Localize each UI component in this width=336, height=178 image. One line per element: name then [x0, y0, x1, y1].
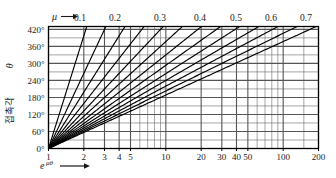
x-tick-label: 20	[197, 152, 207, 162]
y-tick-label: 240°	[27, 76, 45, 86]
y-tick-label: 420°	[27, 25, 45, 35]
x-tick-label: 100	[276, 152, 290, 162]
mu-value-label: 0.6	[265, 13, 277, 23]
x-tick-label: 50	[243, 152, 253, 162]
mu-value-label: 0.2	[109, 13, 121, 23]
y-axis-label-korean: 접촉각	[4, 97, 15, 124]
x-tick-label: 30	[217, 152, 227, 162]
mu-axis-symbol: μ	[51, 11, 57, 22]
x-tick-label: 200	[312, 152, 326, 162]
y-tick-label: 60°	[32, 127, 45, 137]
y-tick-label: 0°	[36, 144, 45, 154]
x-tick-label: 5	[128, 152, 133, 162]
y-tick-label: 300°	[27, 59, 45, 69]
x-axis-label-base: e	[40, 160, 45, 171]
x-axis-label-exponent: μθ	[46, 159, 54, 167]
mu-value-label: 0.3	[154, 13, 166, 23]
mu-value-label: 0.5	[230, 13, 242, 23]
chart-container: 0°60°120°180°240°300°360°420°12345102030…	[0, 0, 336, 178]
x-tick-label: 3	[102, 152, 107, 162]
y-axis-label-symbol: θ	[4, 63, 15, 68]
belt-friction-nomograph: 0°60°120°180°240°300°360°420°12345102030…	[0, 0, 336, 178]
x-tick-label: 4	[117, 152, 122, 162]
mu-value-label: 0.1	[74, 13, 86, 23]
y-tick-label: 120°	[27, 110, 45, 120]
x-tick-label: 40	[232, 152, 242, 162]
x-tick-label: 2	[82, 152, 87, 162]
x-tick-label: 10	[161, 152, 171, 162]
mu-value-label: 0.7	[300, 13, 312, 23]
y-tick-label: 180°	[27, 93, 45, 103]
y-tick-label: 360°	[27, 42, 45, 52]
mu-value-label: 0.4	[194, 13, 206, 23]
